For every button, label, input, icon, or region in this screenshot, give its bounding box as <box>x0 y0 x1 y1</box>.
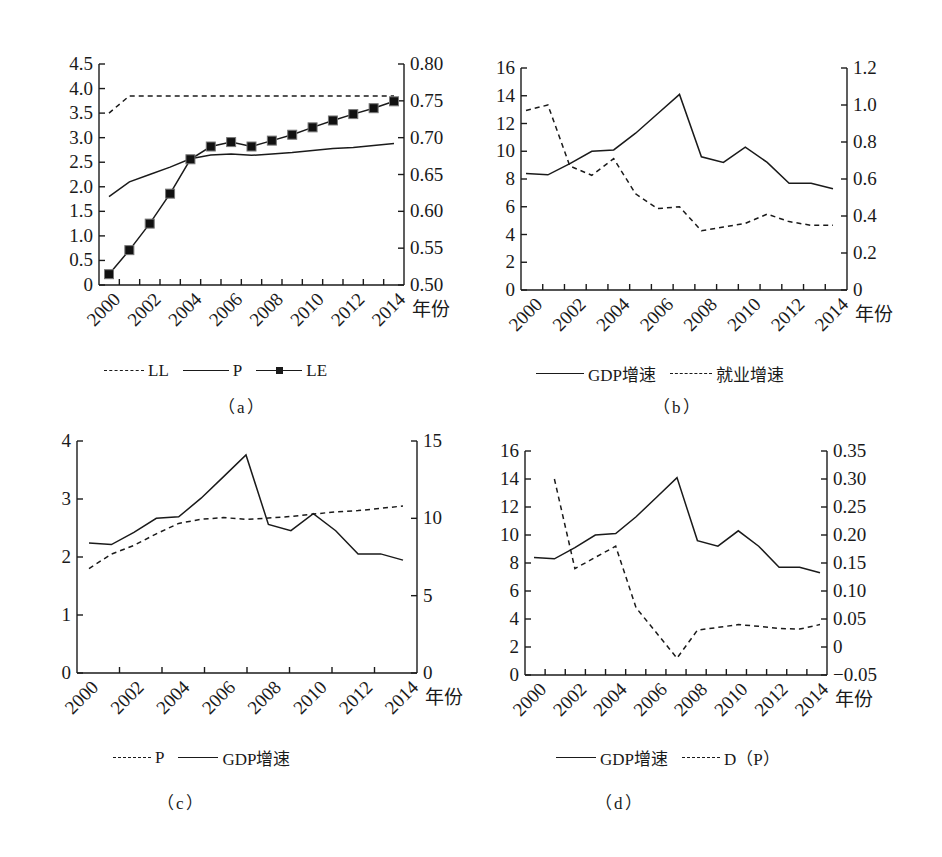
right-axis-tick-label: 0.35 <box>833 440 866 461</box>
right-axis-tick-label: 0.05 <box>833 608 866 629</box>
square-marker-line-swatch-icon <box>256 366 302 376</box>
square-marker-icon <box>227 138 236 147</box>
legend-item-dp: D（P） <box>682 745 780 770</box>
left-axis-tick-label: 12 <box>496 113 515 134</box>
chart-panel-d: 0246810121416−0.0500.050.100.150.200.250… <box>500 440 877 720</box>
series-line-GDP增速 <box>89 455 403 560</box>
right-axis-tick-label: 0.70 <box>410 127 443 148</box>
dashed-line-swatch-icon <box>670 369 712 379</box>
right-axis-tick-label: 0.6 <box>853 168 877 189</box>
legend-panel-c: P GDP增速 <box>113 745 290 770</box>
left-axis-tick-label: 4 <box>510 608 520 629</box>
x-axis-tick-label: 2012 <box>327 288 369 330</box>
legend-panel-b: GDP增速 就业增速 <box>536 361 784 386</box>
left-axis-tick-label: 4.5 <box>69 53 93 74</box>
left-axis-tick-label: 8 <box>510 552 520 573</box>
left-axis-tick-label: 3.0 <box>69 127 93 148</box>
left-axis-tick-label: 0.5 <box>69 249 93 270</box>
x-axis-tick-label: 2014 <box>810 293 852 335</box>
charts-canvas: 00.51.01.52.02.53.03.54.04.50.500.550.60… <box>0 0 942 857</box>
right-axis-tick-label: 0.75 <box>410 90 443 111</box>
solid-line-swatch-icon <box>536 369 584 379</box>
square-marker-icon <box>166 189 175 198</box>
x-axis-tick-label: 2006 <box>629 678 671 720</box>
left-axis-tick-label: 0 <box>506 279 516 300</box>
caption-panel-b: （b） <box>653 393 702 418</box>
right-axis-tick-label: 0 <box>833 636 843 657</box>
x-axis-tick-label: 2004 <box>592 293 634 335</box>
right-axis-tick-label: 5 <box>423 585 433 606</box>
left-axis-tick-label: 2 <box>62 546 72 567</box>
x-axis-tick-label: 2012 <box>750 678 792 720</box>
left-axis-tick-label: 6 <box>510 580 520 601</box>
x-axis-tick-label: 2010 <box>289 676 331 718</box>
square-marker-icon <box>288 130 297 139</box>
series-line-GDP增速 <box>526 94 833 188</box>
left-axis-tick-label: 2 <box>506 251 516 272</box>
left-axis-tick-label: 4 <box>506 224 516 245</box>
left-axis-tick-label: 10 <box>496 140 515 161</box>
right-axis-tick-label: 0.60 <box>410 200 443 221</box>
x-axis-tick-label: 2004 <box>152 676 194 718</box>
right-axis-tick-label: 10 <box>423 507 442 528</box>
left-axis-tick-label: 0 <box>84 274 94 295</box>
right-axis-tick-label: −0.05 <box>833 664 877 685</box>
left-axis-tick-label: 10 <box>500 524 519 545</box>
legend-item-gdp: GDP增速 <box>178 745 290 770</box>
series-line-GDP增速 <box>534 478 820 573</box>
x-axis-tick-label: 2006 <box>205 288 247 330</box>
right-axis-tick-label: 0.25 <box>833 496 866 517</box>
caption-panel-c: （c） <box>157 789 205 814</box>
x-axis-tick-label: 2002 <box>549 678 591 720</box>
right-axis-tick-label: 1.2 <box>853 57 877 78</box>
right-axis-tick-label: 0.4 <box>853 205 877 226</box>
dashed-line-swatch-icon <box>113 753 151 763</box>
x-axis-tick-label: 2008 <box>245 288 287 330</box>
x-axis-tick-label: 2008 <box>670 678 712 720</box>
right-axis-tick-label: 0 <box>853 279 863 300</box>
series-line-P <box>109 144 394 197</box>
left-axis-tick-label: 8 <box>506 168 516 189</box>
solid-line-swatch-icon <box>183 366 229 376</box>
left-axis-tick-label: 1 <box>62 604 72 625</box>
legend-panel-a: LL P LE <box>104 361 327 381</box>
x-axis-tick-label: 2014 <box>790 678 832 720</box>
dashed-line-swatch-icon <box>104 366 144 376</box>
right-axis-tick-label: 0 <box>423 662 433 683</box>
left-axis-tick-label: 1.5 <box>69 200 93 221</box>
x-axis-tick-label: 2010 <box>286 288 328 330</box>
square-marker-icon <box>349 110 358 119</box>
x-axis-tick-label: 2014 <box>380 676 422 718</box>
figure: 00.51.01.52.02.53.03.54.04.50.500.550.60… <box>0 0 942 857</box>
left-axis-tick-label: 2.5 <box>69 151 93 172</box>
left-axis-tick-label: 0 <box>62 662 72 683</box>
right-axis-tick-label: 0.55 <box>410 237 443 258</box>
left-axis-tick-label: 14 <box>496 85 516 106</box>
chart-panel-c: 0123405101520002002200420062008201020122… <box>60 430 463 718</box>
x-axis-tick-label: 2002 <box>106 676 148 718</box>
series-line-D（P） <box>554 479 820 658</box>
chart-panel-a: 00.51.01.52.02.53.03.54.04.50.500.550.60… <box>69 53 450 330</box>
left-axis-tick-label: 1.0 <box>69 225 93 246</box>
legend-item-employment: 就业增速 <box>670 361 784 386</box>
left-axis-tick-label: 16 <box>496 57 515 78</box>
left-axis-tick-label: 2 <box>510 636 520 657</box>
caption-panel-d: （d） <box>595 789 644 814</box>
legend-item-gdp: GDP增速 <box>556 745 668 770</box>
left-axis-tick-label: 0 <box>510 664 520 685</box>
left-axis-tick-label: 16 <box>500 440 519 461</box>
x-axis-title: 年份 <box>425 687 463 708</box>
left-axis-tick-label: 6 <box>506 196 516 217</box>
right-axis-tick-label: 0.2 <box>853 242 877 263</box>
x-axis-title: 年份 <box>835 689 873 710</box>
right-axis-tick-label: 0.20 <box>833 524 866 545</box>
legend-item-ll: LL <box>104 361 169 381</box>
x-axis-tick-label: 2004 <box>164 288 206 330</box>
x-axis-tick-label: 2008 <box>679 293 721 335</box>
right-axis-tick-label: 0.8 <box>853 131 877 152</box>
x-axis-tick-label: 2002 <box>123 288 165 330</box>
x-axis-title: 年份 <box>855 304 893 325</box>
right-axis-tick-label: 1.0 <box>853 94 877 115</box>
x-axis-tick-label: 2012 <box>335 676 377 718</box>
right-axis-tick-label: 0.65 <box>410 164 443 185</box>
